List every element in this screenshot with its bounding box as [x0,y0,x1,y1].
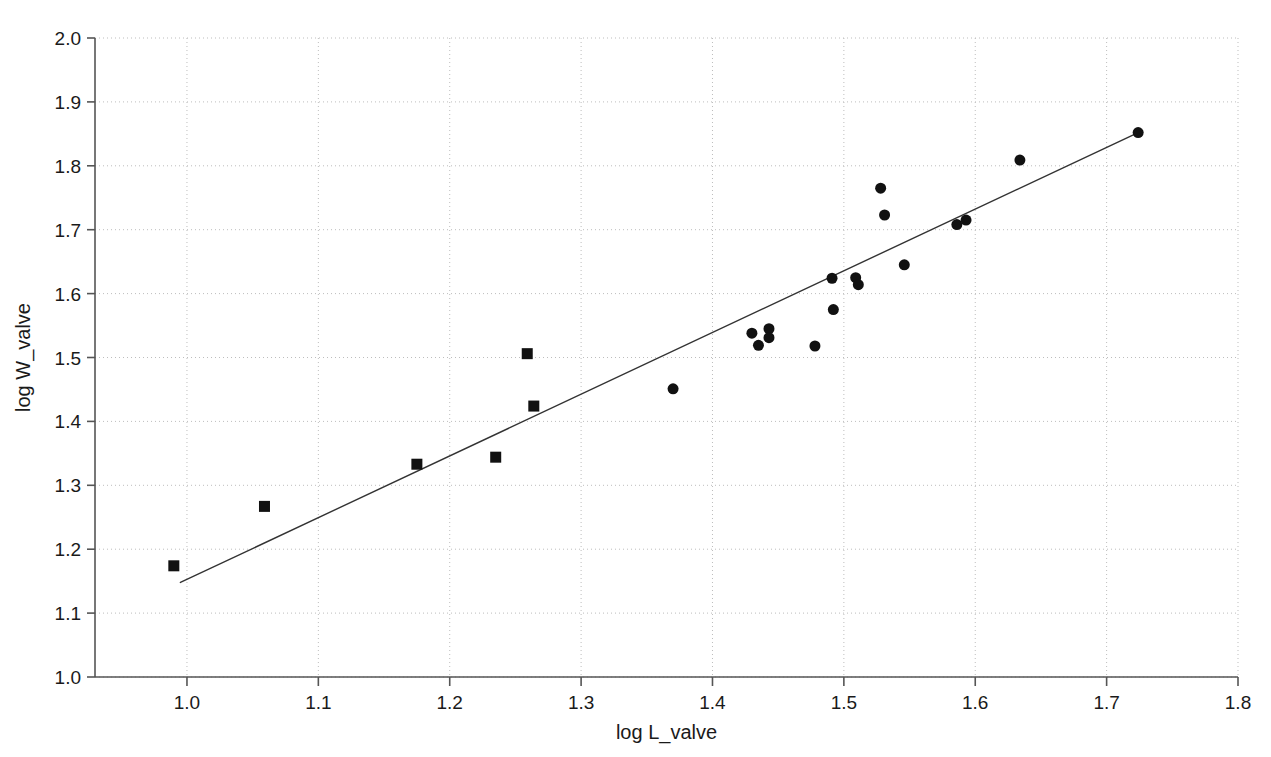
y-tick-label: 1.9 [55,92,81,113]
data-point-circle [899,259,910,270]
x-tick-label: 1.2 [437,692,463,713]
y-tick-label: 1.7 [55,220,81,241]
x-tick-label: 1.1 [305,692,331,713]
data-point-circle [875,183,886,194]
axis-titles-layer: log L_valvelog W_valve [12,303,717,744]
data-point-square [528,401,539,412]
data-point-circle [853,279,864,290]
regression-line-layer [180,133,1138,583]
data-points-layer [168,127,1143,571]
y-tick-label: 1.3 [55,475,81,496]
y-tick-label: 1.2 [55,539,81,560]
x-tick-label: 1.4 [699,692,726,713]
x-tick-label: 1.3 [568,692,594,713]
data-point-circle [668,383,679,394]
x-tick-label: 1.7 [1093,692,1119,713]
scatter-plot-figure: 1.01.11.21.31.41.51.61.71.81.92.01.01.11… [0,0,1271,757]
data-point-square [168,560,179,571]
y-tick-label: 1.5 [55,348,81,369]
x-tick-label: 1.6 [962,692,988,713]
y-tick-label: 1.1 [55,603,81,624]
data-point-circle [753,340,764,351]
data-point-square [522,348,533,359]
data-point-square [490,452,501,463]
data-point-square [259,501,270,512]
data-point-circle [746,328,757,339]
grid-layer [95,38,1238,677]
data-point-circle [809,340,820,351]
y-axis-title: log W_valve [12,303,35,412]
x-tick-label: 1.0 [174,692,200,713]
y-tick-label: 1.0 [55,667,81,688]
regression-line [180,133,1138,583]
data-point-circle [827,273,838,284]
data-point-circle [961,215,972,226]
data-point-square [411,459,422,470]
data-point-circle [763,332,774,343]
data-point-circle [1014,155,1025,166]
x-axis-title: log L_valve [616,721,717,744]
plot-canvas: 1.01.11.21.31.41.51.61.71.81.92.01.01.11… [0,0,1271,757]
y-tick-label: 2.0 [55,28,81,49]
y-tick-label: 1.4 [55,411,82,432]
y-tick-label: 1.8 [55,156,81,177]
tick-labels-layer: 1.01.11.21.31.41.51.61.71.81.92.01.01.11… [55,28,1252,713]
data-point-circle [1133,127,1144,138]
y-tick-label: 1.6 [55,284,81,305]
x-tick-label: 1.5 [831,692,857,713]
x-tick-label: 1.8 [1225,692,1251,713]
data-point-circle [828,304,839,315]
axes-layer [87,38,1238,686]
data-point-circle [879,210,890,221]
